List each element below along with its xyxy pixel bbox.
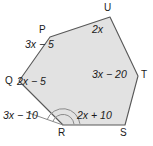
vertex-label-u: U [104, 3, 111, 13]
vertex-label-s: S [120, 128, 127, 138]
vertex-label-t: T [141, 70, 147, 80]
angle-label-t: 3x − 20 [92, 69, 127, 80]
vertex-label-p: P [39, 25, 46, 35]
vertex-label-q: Q [5, 76, 13, 86]
hexagon-diagram-svg [0, 0, 153, 146]
angle-label-p: 3x − 5 [25, 39, 54, 50]
angle-label-q: 2x − 5 [17, 76, 46, 87]
angle-label-r-exterior: 3x − 10 [3, 110, 38, 121]
geometry-figure: P U T S R Q 3x − 5 2x 3x − 20 2x + 10 2x… [0, 0, 153, 146]
angle-label-s: 2x + 10 [77, 110, 112, 121]
angle-label-u: 2x [92, 24, 103, 35]
vertex-label-r: R [58, 128, 65, 138]
